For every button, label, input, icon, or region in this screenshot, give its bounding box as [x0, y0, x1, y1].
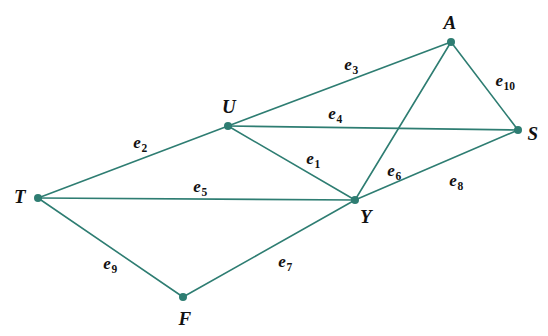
graph-edge-e7	[183, 200, 355, 297]
edge-label-base: e	[103, 254, 111, 273]
edge-label-subscript: 4	[336, 113, 342, 125]
graph-vertex-A	[447, 38, 455, 46]
edge-label-e8: e8	[449, 172, 462, 189]
graph-vertex-U	[224, 122, 232, 130]
vertex-label-S: S	[528, 124, 539, 143]
edge-label-e1: e1	[306, 150, 319, 167]
edge-label-subscript: 3	[352, 64, 358, 76]
vertex-label-F: F	[179, 309, 192, 328]
edge-label-e9: e9	[103, 255, 116, 272]
edge-label-subscript: 10	[504, 80, 516, 92]
edge-label-subscript: 8	[457, 180, 463, 192]
edge-label-subscript: 2	[141, 142, 147, 154]
vertex-label-T: T	[14, 187, 26, 206]
vertex-label-U: U	[222, 97, 236, 116]
edge-label-e10: e10	[495, 72, 514, 89]
graph-vertex-T	[34, 194, 42, 202]
edge-label-base: e	[449, 171, 457, 190]
graph-edge-e1	[228, 126, 355, 200]
graph-diagram-canvas: e1e2e3e4e5e6e7e8e9e10TUASYF	[0, 0, 548, 336]
graph-edge-e6	[355, 42, 451, 200]
graph-edge-e5	[38, 198, 355, 200]
edge-label-base: e	[387, 161, 395, 180]
edge-label-base: e	[306, 149, 314, 168]
edge-label-subscript: 5	[201, 186, 207, 198]
edge-label-e5: e5	[193, 178, 206, 195]
vertex-label-A: A	[444, 13, 457, 32]
edge-label-subscript: 6	[395, 170, 401, 182]
edge-label-base: e	[344, 55, 352, 74]
graph-vertex-Y	[351, 196, 359, 204]
edge-label-e4: e4	[328, 105, 341, 122]
edge-label-base: e	[495, 71, 503, 90]
graph-edge-e8	[355, 130, 518, 200]
edge-label-subscript: 7	[286, 261, 292, 273]
edge-label-subscript: 9	[111, 263, 117, 275]
edge-label-e3: e3	[344, 56, 357, 73]
edge-label-base: e	[193, 177, 201, 196]
graph-vertex-S	[514, 126, 522, 134]
edge-label-e2: e2	[133, 134, 146, 151]
edge-label-e6: e6	[387, 162, 400, 179]
edge-label-subscript: 1	[314, 158, 320, 170]
graph-edge-e9	[38, 198, 183, 297]
edge-label-base: e	[328, 104, 336, 123]
graph-vertex-F	[179, 293, 187, 301]
edge-label-base: e	[133, 133, 141, 152]
graph-edge-e4	[228, 126, 518, 130]
graph-svg	[0, 0, 548, 336]
edge-label-e7: e7	[278, 253, 291, 270]
vertex-label-Y: Y	[360, 207, 372, 226]
edge-label-base: e	[278, 252, 286, 271]
